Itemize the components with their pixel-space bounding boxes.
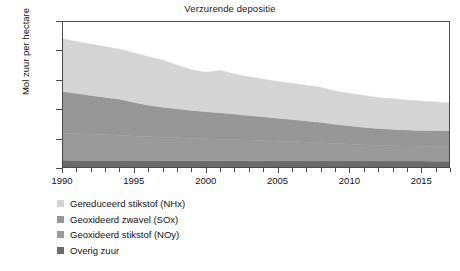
x-axis-tick-label: 1995 — [123, 175, 144, 186]
x-axis-tick-mark — [91, 168, 92, 172]
x-axis-tick-mark — [335, 168, 336, 172]
x-axis-tick-label: 2010 — [339, 175, 360, 186]
x-axis-tick-mark — [393, 168, 394, 172]
chart-figure: Verzurende depositie Mol zuur per hectar… — [0, 0, 460, 271]
x-axis-tick-mark — [292, 168, 293, 172]
x-axis-tick-mark — [349, 168, 350, 173]
x-axis-tick-mark — [220, 168, 221, 172]
x-axis-tick-mark — [378, 168, 379, 172]
legend-item-label: Gereduceerd stikstof (NHx) — [70, 199, 185, 209]
x-axis-tick-label: 2005 — [267, 175, 288, 186]
stacked-area-paths — [63, 22, 449, 167]
x-axis-tick-label: 1990 — [51, 175, 72, 186]
y-axis-label: Mol zuur per hectare — [20, 0, 31, 132]
x-axis-tick-mark — [278, 168, 279, 173]
x-axis-tick-mark — [436, 168, 437, 172]
x-axis-tick-mark — [364, 168, 365, 172]
legend-item[interactable]: Overig zuur — [57, 243, 307, 259]
plot-area — [62, 21, 450, 168]
x-axis-tick-mark — [306, 168, 307, 172]
x-axis-tick-mark — [177, 168, 178, 172]
x-axis-tick-mark — [76, 168, 77, 172]
x-axis-tick-mark — [421, 168, 422, 173]
x-axis-tick-mark — [321, 168, 322, 172]
legend-item[interactable]: Gereduceerd stikstof (NHx) — [57, 196, 307, 212]
x-axis-tick-label: 2000 — [195, 175, 216, 186]
x-axis-tick-mark — [206, 168, 207, 173]
legend-item-label: Overig zuur — [70, 246, 119, 256]
legend-swatch-icon — [57, 247, 64, 254]
x-axis-tick-mark — [407, 168, 408, 172]
x-axis-tick-mark — [105, 168, 106, 172]
x-axis-tick-label: 2015 — [411, 175, 432, 186]
x-axis-tick-mark — [191, 168, 192, 172]
chart-title: Verzurende depositie — [0, 3, 460, 14]
x-axis-tick-mark — [134, 168, 135, 173]
x-axis-tick-mark — [234, 168, 235, 172]
x-axis-tick-mark — [450, 168, 451, 172]
legend-item[interactable]: Geoxideerd zwavel (SOx) — [57, 212, 307, 228]
x-axis-tick-mark — [249, 168, 250, 172]
legend-swatch-icon — [57, 216, 64, 223]
legend-item-label: Geoxideerd stikstof (NOy) — [70, 230, 179, 240]
legend-item-label: Geoxideerd zwavel (SOx) — [70, 215, 178, 225]
legend-swatch-icon — [57, 231, 64, 238]
x-axis-tick-mark — [62, 168, 63, 173]
x-axis-tick-mark — [163, 168, 164, 172]
legend-item[interactable]: Geoxideerd stikstof (NOy) — [57, 227, 307, 243]
area-series — [63, 160, 449, 167]
x-axis-tick-mark — [119, 168, 120, 172]
x-axis-tick-mark — [148, 168, 149, 172]
x-axis-tick-mark — [263, 168, 264, 172]
chart-legend: Gereduceerd stikstof (NHx)Geoxideerd zwa… — [57, 196, 307, 258]
legend-swatch-icon — [57, 200, 64, 207]
